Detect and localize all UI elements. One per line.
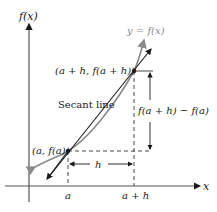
tick-label-a-plus-h: a + h: [122, 190, 149, 201]
tick-label-a: a: [65, 190, 71, 201]
vertical-dimension-label: f(a + h) − f(a): [137, 105, 209, 116]
secant-diagram: f(x) x y = f(x) Secant line (a, f(a)) (a…: [0, 0, 217, 212]
h-dimension-label: h: [95, 159, 101, 170]
secant-label: Secant line: [58, 99, 115, 110]
point-a-label: (a, f(a)): [32, 145, 70, 156]
x-axis-label: x: [203, 180, 210, 193]
point-a-plus-h-label: (a + h, f(a + h)): [55, 65, 135, 76]
curve-label: y = f(x): [126, 25, 165, 36]
y-axis-label: f(x): [18, 10, 38, 23]
